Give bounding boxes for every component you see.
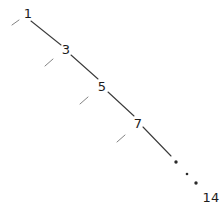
node-label-14: 14: [203, 191, 220, 204]
edge-tick-mark: [80, 97, 88, 104]
ellipsis-dot: [174, 160, 177, 163]
ellipsis-dot: [194, 181, 197, 184]
node-label-7: 7: [134, 117, 142, 130]
edge-tick-mark: [45, 59, 53, 66]
node-label-1: 1: [24, 7, 32, 20]
edge-3-to-5: [71, 55, 98, 79]
edge-7-to-…: [143, 127, 171, 156]
ellipsis-dots-group: [174, 160, 197, 184]
diagram-canvas: 135714: [0, 0, 223, 216]
node-label-5: 5: [98, 80, 106, 93]
node-label-3: 3: [62, 43, 70, 56]
ellipsis-dot: [186, 173, 189, 176]
edge-tick-mark: [117, 135, 125, 142]
diagram-graphics: [0, 0, 223, 216]
edge-tick-mark: [12, 20, 19, 25]
edge-5-to-7: [108, 92, 134, 116]
edge-ticks-group: [12, 20, 125, 142]
edge-1-to-3: [31, 21, 61, 45]
